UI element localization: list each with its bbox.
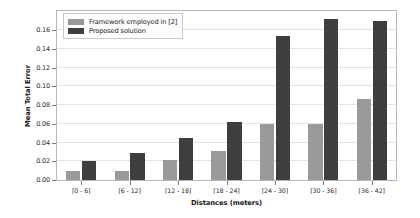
bar-framework xyxy=(211,151,225,180)
legend-item: Proposed solution xyxy=(68,26,177,35)
bar-framework xyxy=(163,160,177,180)
bar-proposed xyxy=(82,161,96,180)
y-tick-label: 0.04 xyxy=(0,139,50,147)
legend-swatch-light xyxy=(68,19,84,25)
x-tick-mark xyxy=(372,181,373,185)
y-tick-label: 0.00 xyxy=(0,176,50,184)
x-tick-mark xyxy=(323,181,324,185)
bar-proposed xyxy=(130,153,144,180)
x-tick-label: [0 - 6] xyxy=(72,187,91,194)
bar-proposed xyxy=(227,122,241,180)
x-tick-label: [30 - 36] xyxy=(310,187,336,194)
y-tick-label: 0.14 xyxy=(0,45,50,53)
legend-swatch-dark xyxy=(68,28,84,34)
bar-group xyxy=(299,11,347,180)
x-tick-mark xyxy=(130,181,131,185)
x-tick-mark xyxy=(81,181,82,185)
bar-group xyxy=(202,11,250,180)
x-tick-label: [24 - 30] xyxy=(262,187,288,194)
chart-legend: Framework employed in [2]Proposed soluti… xyxy=(63,13,183,39)
bar-proposed xyxy=(276,36,290,180)
x-axis-title: Distances (meters) xyxy=(56,199,397,207)
bar-group xyxy=(348,11,396,180)
bar-framework xyxy=(260,124,274,180)
y-tick-label: 0.08 xyxy=(0,101,50,109)
x-tick-label: [6 - 12] xyxy=(118,187,140,194)
y-axis-title-wrap: Mean Total Error xyxy=(0,10,20,181)
x-tick-mark xyxy=(275,181,276,185)
y-tick-label: 0.06 xyxy=(0,120,50,128)
bar-proposed xyxy=(179,138,193,180)
x-tick-mark xyxy=(227,181,228,185)
y-tick-label: 0.02 xyxy=(0,157,50,165)
y-axis-title: Mean Total Error xyxy=(24,36,32,156)
bar-framework xyxy=(308,124,322,180)
legend-label: Proposed solution xyxy=(89,27,146,35)
bar-chart-figure: Mean Total Error 0.000.020.040.060.080.1… xyxy=(0,0,420,218)
bar-framework xyxy=(357,99,371,180)
y-tick-label: 0.12 xyxy=(0,64,50,72)
y-tick-label: 0.10 xyxy=(0,82,50,90)
bar-proposed xyxy=(324,19,338,180)
bar-framework xyxy=(115,171,129,180)
bar-proposed xyxy=(373,21,387,180)
x-tick-mark xyxy=(178,181,179,185)
y-tick-label: 0.16 xyxy=(0,26,50,34)
x-tick-label: [18 - 24] xyxy=(213,187,239,194)
legend-label: Framework employed in [2] xyxy=(89,18,177,26)
bar-group xyxy=(251,11,299,180)
legend-item: Framework employed in [2] xyxy=(68,17,177,26)
x-tick-label: [36 - 42] xyxy=(359,187,385,194)
x-tick-label: [12 - 18] xyxy=(165,187,191,194)
bar-framework xyxy=(66,171,80,180)
